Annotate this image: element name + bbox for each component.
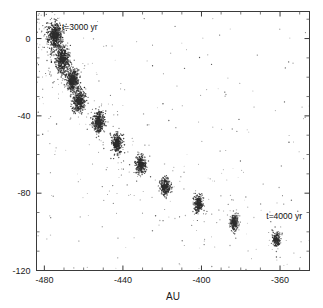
t3000-label: t=3000 yr [62, 22, 98, 32]
plot-canvas: -480-440-400-3600-40-80-120 t=3000 yrt=4… [0, 0, 323, 308]
t4000-label: t=4000 yr [266, 211, 302, 221]
x-tick-label: -480 [35, 275, 53, 285]
x-tick-label: -360 [271, 275, 289, 285]
x-tick-label: -400 [192, 275, 210, 285]
x-tick-label: -440 [114, 275, 132, 285]
x-axis-title: AU [166, 291, 180, 302]
y-tick-label: -120 [12, 266, 30, 276]
y-tick-label: 0 [25, 34, 30, 44]
y-tick-label: -40 [17, 111, 30, 121]
scatter-figure: -480-440-400-3600-40-80-120 t=3000 yrt=4… [0, 0, 323, 308]
figure-background [0, 0, 323, 308]
y-tick-label: -80 [17, 188, 30, 198]
